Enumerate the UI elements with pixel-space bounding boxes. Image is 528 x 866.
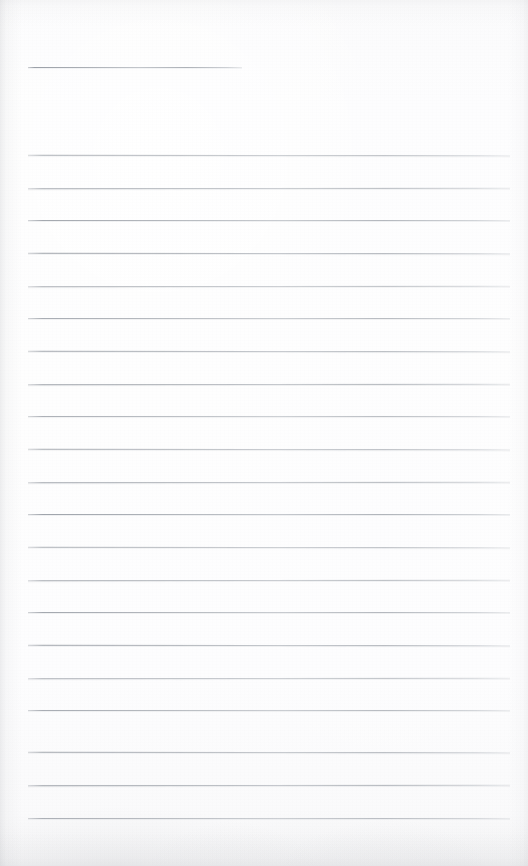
ruled-line — [28, 351, 510, 353]
ruled-lines-layer — [0, 0, 528, 866]
ruled-line — [28, 580, 510, 581]
ruled-line — [28, 188, 510, 189]
ruled-line — [28, 710, 510, 711]
ruled-line — [28, 514, 510, 515]
scanned-page — [0, 0, 528, 866]
ruled-line — [28, 384, 510, 385]
ruled-line — [28, 785, 510, 786]
ruled-line — [28, 678, 510, 679]
ruled-line — [28, 253, 510, 255]
ruled-line — [28, 645, 510, 647]
ruled-line — [28, 416, 510, 417]
ruled-line — [28, 318, 510, 319]
ruled-line — [28, 449, 510, 451]
ruled-line — [28, 155, 510, 157]
ruled-line — [28, 482, 510, 483]
ruled-line — [28, 286, 510, 287]
ruled-line — [28, 220, 510, 221]
header-rule — [28, 67, 242, 68]
ruled-line — [28, 818, 510, 819]
ruled-line — [28, 612, 510, 613]
ruled-line — [28, 547, 510, 549]
ruled-line — [28, 752, 510, 754]
